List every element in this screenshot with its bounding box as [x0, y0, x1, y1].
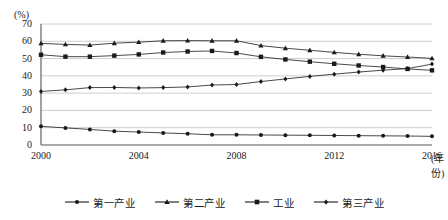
industry-share-line-chart: (%) 第一产业第二产业工业第三产业 010203040506070200020…	[0, 0, 448, 220]
square-marker	[210, 49, 214, 53]
circle-marker	[406, 134, 410, 138]
y-axis-tick-label: 0	[10, 139, 32, 150]
legend-label: 第二产业	[183, 195, 225, 210]
circle-marker	[161, 131, 165, 135]
legend-marker-swatch	[313, 197, 339, 207]
square-marker	[161, 50, 165, 54]
square-marker	[137, 52, 141, 56]
circle-marker	[235, 133, 239, 137]
x-axis-tick-label: 2004	[119, 150, 159, 161]
series-line	[41, 64, 432, 91]
circle-marker	[381, 134, 385, 138]
circle-marker	[112, 129, 116, 133]
circle-marker	[332, 133, 336, 137]
circle-marker	[63, 126, 67, 130]
diamond-marker	[430, 62, 434, 67]
square-marker	[39, 53, 43, 57]
circle-marker	[186, 132, 190, 136]
square-marker	[332, 62, 336, 66]
series-3	[39, 49, 434, 73]
y-axis-tick-label: 20	[10, 104, 32, 115]
legend-label: 第一产业	[93, 195, 135, 210]
legend-marker-swatch	[154, 197, 180, 207]
circle-marker	[137, 130, 141, 134]
x-axis-tick-label: 2000	[21, 150, 61, 161]
circle-marker	[210, 133, 214, 137]
square-marker	[308, 59, 312, 63]
circle-marker	[259, 133, 263, 137]
diamond-marker	[63, 87, 67, 92]
y-axis-tick-label: 10	[10, 122, 32, 133]
diamond-marker	[88, 85, 92, 90]
y-axis-tick-label: 60	[10, 35, 32, 46]
circle-marker	[357, 134, 361, 138]
series-line	[41, 41, 432, 59]
y-axis-tick-label: 40	[10, 70, 32, 81]
diamond-marker	[161, 85, 165, 90]
legend-label: 工业	[273, 195, 294, 210]
legend-marker-swatch	[64, 197, 90, 207]
y-axis-tick-label: 50	[10, 53, 32, 64]
x-axis-tick-label: 2008	[217, 150, 257, 161]
diamond-marker	[235, 82, 239, 87]
diamond-marker	[308, 74, 312, 79]
x-axis-unit-label: (年份)	[431, 150, 448, 180]
square-marker	[430, 68, 434, 72]
circle-marker	[308, 133, 312, 137]
diamond-marker	[283, 76, 287, 81]
square-marker	[283, 57, 287, 61]
diamond-marker	[137, 85, 141, 90]
square-marker	[185, 49, 189, 53]
square-marker	[112, 53, 116, 57]
circle-marker	[39, 124, 43, 128]
legend-label: 第三产业	[342, 195, 384, 210]
square-marker	[255, 200, 260, 205]
square-marker	[259, 55, 263, 59]
y-axis-tick-label: 30	[10, 87, 32, 98]
square-marker	[88, 54, 92, 58]
circle-marker	[283, 133, 287, 137]
diamond-marker	[186, 84, 190, 89]
diamond-marker	[210, 83, 214, 88]
square-marker	[356, 63, 360, 67]
legend-marker-swatch	[244, 197, 270, 207]
circle-marker	[430, 134, 434, 138]
y-axis-tick-label: 70	[10, 18, 32, 29]
legend-item[interactable]: 工业	[244, 195, 294, 210]
square-marker	[234, 51, 238, 55]
legend-item[interactable]: 第一产业	[64, 195, 135, 210]
plot-area	[0, 0, 448, 220]
square-marker	[63, 54, 67, 58]
x-axis-tick-label: 2012	[314, 150, 354, 161]
chart-legend: 第一产业第二产业工业第三产业	[0, 191, 448, 213]
series-1	[39, 124, 434, 138]
diamond-marker	[357, 70, 361, 75]
circle-marker	[88, 127, 92, 131]
legend-item[interactable]: 第三产业	[313, 195, 384, 210]
diamond-marker	[324, 199, 328, 204]
circle-marker	[75, 200, 79, 204]
diamond-marker	[112, 85, 116, 90]
diamond-marker	[259, 79, 263, 84]
legend-item[interactable]: 第二产业	[154, 195, 225, 210]
